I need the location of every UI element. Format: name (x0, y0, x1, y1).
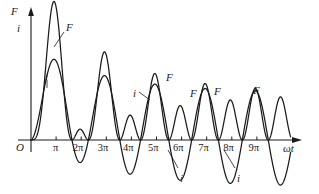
x-tick-label-7: 7π (198, 143, 209, 154)
x-tick-label-5: 5π (148, 143, 159, 154)
label-F-4: F (214, 86, 221, 97)
label-i-3: i (180, 173, 183, 184)
label-F-1: F (66, 22, 73, 33)
y-axis-label-current: i (17, 23, 20, 34)
figure-canvas (0, 0, 319, 194)
x-tick-label-4: 4π (123, 143, 134, 154)
origin-label: O (16, 142, 24, 153)
label-F-3: F (190, 88, 197, 99)
label-F-2: F (166, 72, 173, 83)
curve-current-i (31, 59, 291, 185)
x-tick-label-9: 9π (248, 143, 259, 154)
label-i-4: i (237, 173, 240, 184)
x-tick-label-6: 6π (173, 143, 184, 154)
axes-group (18, 7, 302, 152)
y-axis-arrowhead (28, 7, 34, 16)
x-axis-label: ωt (283, 143, 294, 154)
label-i-1: i (45, 71, 48, 82)
x-tick-label-1: π (53, 143, 58, 154)
label-i-2: i (133, 88, 136, 99)
x-tick-label-2: 2π (73, 143, 84, 154)
label-F-5: F (253, 85, 260, 96)
x-tick-label-3: 3π (98, 143, 109, 154)
x-tick-label-8: 8π (223, 143, 234, 154)
y-axis-label-force: F (11, 6, 18, 17)
